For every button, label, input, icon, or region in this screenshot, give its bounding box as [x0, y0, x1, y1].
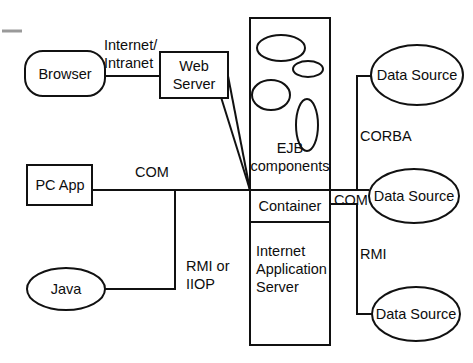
edge-label-corba: CORBA: [360, 128, 412, 144]
node-web-server-label-line1: Web: [179, 58, 209, 74]
edge-label-rmi: RMI: [360, 246, 387, 262]
diagram-canvas: Browser Web Server PC App Java EJB compo…: [0, 0, 473, 363]
edge-label-com-right: COM: [334, 192, 368, 208]
node-web-server-label-line2: Server: [173, 76, 216, 92]
ejb-component-ellipse-1: [257, 35, 305, 61]
node-data-source-1-label: Data Source: [377, 67, 458, 83]
node-data-source-3-label: Data Source: [376, 306, 457, 322]
node-java-label: Java: [51, 281, 82, 297]
edge-label-rmi-or-iiop-line1: RMI or: [186, 258, 230, 274]
edge-label-rmi-or-iiop-line2: IIOP: [186, 276, 215, 292]
edge-java-rmi-iiop: [105, 190, 175, 289]
node-ias-label-line1: Internet: [256, 243, 305, 259]
node-container-label: Container: [259, 198, 322, 214]
edge-label-internet-intranet-line1: Internet/: [104, 37, 157, 53]
node-ejb-label-line2: components: [251, 158, 330, 174]
edge-label-internet-intranet-line2: Intranet: [104, 55, 153, 71]
node-pc-app-label: PC App: [35, 177, 84, 193]
ejb-component-ellipse-3: [252, 80, 290, 110]
node-data-source-2-label: Data Source: [374, 188, 455, 204]
edge-label-com-left: COM: [135, 164, 169, 180]
node-ejb-label-line1: EJB: [277, 140, 304, 156]
node-ias-label-line2: Application: [256, 261, 327, 277]
node-browser-label: Browser: [38, 66, 91, 82]
node-ias-label-line3: Server: [256, 279, 299, 295]
ejb-component-ellipse-2: [293, 61, 323, 77]
